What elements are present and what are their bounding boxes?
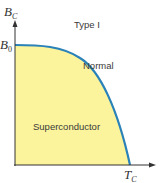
x-axis-arrow-icon [149,163,156,168]
b0-label-main: B [0,37,8,52]
b0-label: B0 [0,38,12,51]
critical-field-diagram: BC B0 TC Type I Normal Superconductor [0,0,162,183]
y-axis-label-sub: C [12,12,17,21]
x-axis-label: TC [124,168,137,181]
x-axis-label-sub: C [131,175,136,183]
b0-label-sub: 0 [8,45,12,54]
normal-region-label: Normal [83,61,114,71]
type-label: Type I [74,20,100,30]
y-axis-label-main: B [4,4,12,19]
superconductor-region-label: Superconductor [33,122,100,132]
y-axis-label: BC [4,5,17,18]
y-axis-arrow-icon [13,20,18,27]
